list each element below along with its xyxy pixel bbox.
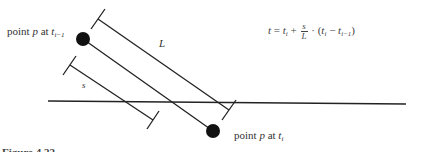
tick-L-start xyxy=(91,9,105,29)
tick-s-start xyxy=(63,56,76,75)
tick-s-end xyxy=(147,111,159,129)
diagram-canvas xyxy=(0,0,421,152)
label-point-prev: point p at ti−1 xyxy=(7,26,65,39)
label-length-L: L xyxy=(159,38,165,49)
horizontal-line xyxy=(48,101,406,104)
point-prev-dot xyxy=(76,32,90,46)
point-curr-dot xyxy=(206,124,220,138)
figure-caption: Figure 4.22 xyxy=(2,146,55,152)
label-length-s: s xyxy=(82,81,86,90)
interpolation-formula: t = ti + sL · (ti − ti−1) xyxy=(268,22,355,41)
label-point-curr: point p at ti xyxy=(234,130,283,143)
fraction-s-over-L: sL xyxy=(301,22,308,41)
dimension-s xyxy=(63,56,159,129)
dimension-L xyxy=(91,9,236,120)
